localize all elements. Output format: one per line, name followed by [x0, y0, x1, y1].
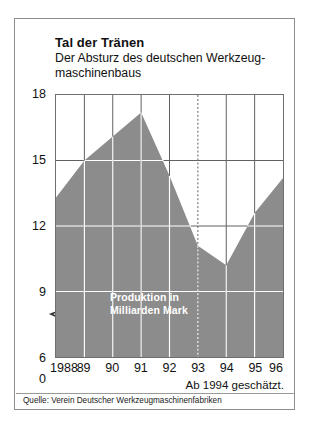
y-axis-tick-label: 18 — [32, 88, 46, 100]
x-axis-tick-label: 91 — [134, 361, 148, 375]
y-axis-tick-label: 6 — [39, 352, 46, 364]
y-axis-labels: 181512960 — [15, 94, 51, 358]
screenshot-root: Tal der Tränen Der Absturz des deutschen… — [0, 0, 312, 437]
x-axis-tick-label: 93 — [191, 361, 205, 375]
x-axis-tick-label: 96 — [269, 361, 283, 375]
x-axis-tick-label: 95 — [248, 361, 262, 375]
x-axis-tick-label: 94 — [220, 361, 234, 375]
chart-plot-wrapper: 181512960 Produktion in Milliarden Mark … — [15, 19, 296, 411]
area-chart-plot — [55, 94, 284, 358]
y-axis-tick-label: 12 — [32, 220, 46, 232]
area-chart-svg — [56, 95, 283, 357]
series-label: Produktion in Milliarden Mark — [110, 291, 188, 317]
x-axis-tick-label: 92 — [163, 361, 177, 375]
footer-divider — [16, 393, 295, 394]
y-axis-tick-label: 0 — [39, 373, 46, 385]
x-axis-tick-label: 89 — [77, 361, 91, 375]
chart-render-target — [56, 95, 283, 357]
y-axis-tick-label: 9 — [39, 286, 46, 298]
x-axis-tick-label: 90 — [105, 361, 119, 375]
series-label-line2: Milliarden Mark — [110, 304, 188, 317]
source-note: Quelle: Verein Deutscher Werkzeugmaschin… — [23, 396, 222, 405]
chart-card: Tal der Tränen Der Absturz des deutschen… — [14, 18, 295, 410]
forecast-note: Ab 1994 geschätzt. — [186, 379, 284, 391]
y-axis-tick-label: 15 — [32, 154, 46, 166]
x-axis-tick-label: 1988 — [50, 361, 78, 375]
x-axis-labels: 19888990919293949596 — [55, 361, 284, 379]
series-label-line1: Produktion in — [110, 291, 188, 304]
